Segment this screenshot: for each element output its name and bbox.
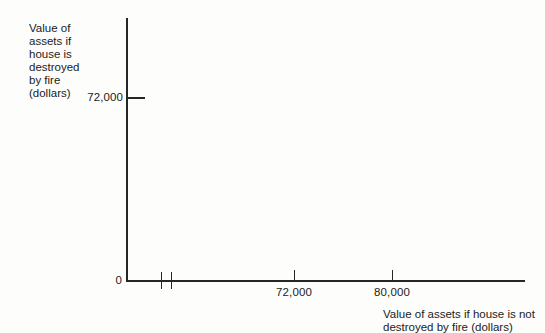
x-axis-line	[126, 280, 525, 282]
y-axis-title-line-5: by fire	[29, 74, 115, 87]
x-axis-break-mark-2	[171, 272, 172, 289]
y-axis-title-line-1: Value of	[29, 22, 115, 35]
x-axis-tick-72000	[294, 270, 295, 281]
y-axis-title-line-2: assets if	[29, 35, 115, 48]
y-axis-tick-label-72000: 72,000	[87, 91, 123, 103]
y-axis-tick-72000	[127, 97, 145, 98]
x-axis-tick-label-72000: 72,000	[276, 286, 312, 298]
budget-line-chart: Value of assets if house is destroyed by…	[0, 0, 545, 333]
x-axis-title-line-2: destroyed by fire (dollars)	[383, 321, 545, 333]
x-axis-title-line-1: Value of assets if house is not	[383, 308, 545, 321]
y-axis-line	[126, 18, 128, 282]
x-axis-tick-label-80000: 80,000	[374, 286, 410, 298]
y-axis-title-line-4: destroyed	[29, 61, 115, 74]
y-axis-tick-label-wrap: 72,000	[0, 91, 123, 105]
x-axis-tick-80000	[392, 270, 393, 281]
x-axis-title: Value of assets if house is not destroye…	[383, 308, 545, 333]
y-axis-title-line-3: house is	[29, 48, 115, 61]
origin-label: 0	[0, 274, 122, 286]
y-axis-title: Value of assets if house is destroyed by…	[29, 22, 115, 101]
x-axis-break-mark-1	[161, 272, 162, 289]
